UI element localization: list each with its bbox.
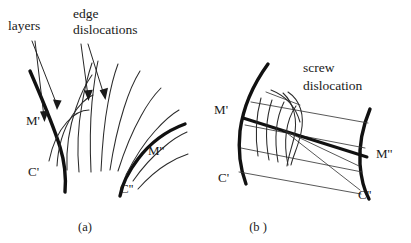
caption-panel-b: (b ) — [249, 220, 267, 234]
label-c-double-prime-a: C'' — [120, 181, 133, 196]
fan-curve — [78, 63, 92, 172]
panel-b-medial-line-m-prime-to-m-double-prime — [243, 118, 367, 157]
annotation-edge-line2: dislocations — [73, 22, 138, 37]
leader-arrow-line — [35, 41, 44, 117]
annotation-edge-line1: edge — [73, 6, 98, 21]
fan-curve — [110, 71, 140, 170]
label-m-double-prime-a: M'' — [148, 143, 164, 158]
label-m-prime-b: M' — [214, 102, 228, 117]
fan-curve — [101, 64, 118, 171]
panel-b: screw dislocation M' C' M'' C'' (b ) — [214, 60, 392, 234]
band-line-lower-mid — [241, 148, 362, 172]
fan-curve — [138, 154, 188, 189]
label-m-double-prime-b: M'' — [376, 146, 392, 161]
arrow-head-icon — [100, 88, 108, 100]
panel-a: layers edge dislocations M' C' M'' C'' (… — [8, 6, 188, 234]
scientific-figure: layers edge dislocations M' C' M'' C'' (… — [0, 0, 411, 243]
figure-root: layers edge dislocations M' C' M'' C'' (… — [0, 0, 411, 243]
panel-a-leader-arrows — [32, 41, 108, 122]
panel-a-layer-fan — [49, 61, 188, 189]
annotation-screw-line2: dislocation — [303, 78, 362, 93]
fan-curve — [90, 61, 98, 172]
annotation-screw-line1: screw — [303, 60, 335, 75]
label-c-prime-a: C' — [28, 164, 39, 179]
arrow-head-icon — [53, 99, 62, 110]
label-c-double-prime-b: C'' — [358, 187, 371, 202]
band-line-bottom — [239, 172, 361, 194]
caption-panel-a: (a) — [78, 220, 92, 234]
label-m-prime-a: M' — [26, 113, 40, 128]
annotation-layers: layers — [8, 18, 40, 33]
panel-b-band-lines — [239, 102, 368, 194]
label-c-prime-b: C' — [218, 170, 229, 185]
